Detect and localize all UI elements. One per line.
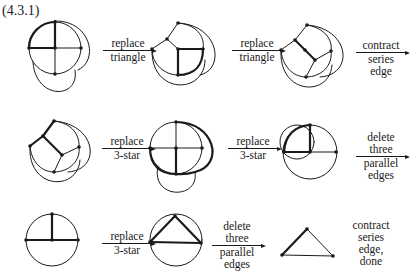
label-line: parallel [212, 246, 262, 258]
step-label-replace-triangle-2: replace triangle [232, 37, 282, 63]
step-label-delete-three-parallel-edges-2: delete three parallel edges [212, 220, 262, 270]
label-line: 3-star [228, 149, 278, 161]
label-line: replace [102, 230, 152, 244]
label-line: contract [343, 219, 399, 231]
label-line: done [343, 255, 399, 267]
label-line: 3-star [102, 244, 152, 256]
step-label-replace-triangle-1: replace triangle [103, 37, 153, 63]
label-line: series [356, 53, 406, 65]
label-line: replace [232, 37, 282, 51]
label-line: three [212, 232, 262, 246]
label-line: edges [212, 258, 262, 270]
label-line: delete [212, 220, 262, 232]
label-line: replace [228, 135, 278, 149]
graph-5 [148, 120, 212, 192]
graph-6 [280, 123, 338, 179]
label-line: series [343, 231, 399, 243]
label-line: triangle [103, 51, 153, 63]
graph-7 [24, 212, 80, 266]
label-line: edges [356, 169, 406, 181]
label-line: triangle [232, 51, 282, 63]
label-line: replace [103, 37, 153, 51]
label-line: replace [102, 135, 152, 149]
step-label-contract-series-edge: contract series edge [356, 39, 406, 77]
step-label-replace-3-star-1: replace 3-star [102, 135, 152, 161]
label-line: contract [356, 39, 406, 53]
graph-3 [279, 23, 343, 87]
step-label-delete-three-parallel-edges-1: delete three parallel edges [356, 131, 406, 181]
label-line: edge [356, 65, 406, 77]
label-line: three [356, 143, 406, 157]
graph-2 [150, 21, 215, 85]
label-line: 3-star [102, 149, 152, 161]
label-line: delete [356, 131, 406, 143]
graph-8 [148, 214, 203, 266]
graph-1 [27, 20, 89, 91]
step-label-replace-3-star-3: replace 3-star [102, 230, 152, 256]
graph-4 [28, 119, 90, 182]
step-label-contract-series-edge-done: contract series edge, done [343, 219, 399, 267]
label-line: parallel [356, 157, 406, 169]
label-line: edge, [343, 243, 399, 255]
graph-9 [280, 227, 335, 258]
step-label-replace-3-star-2: replace 3-star [228, 135, 278, 161]
